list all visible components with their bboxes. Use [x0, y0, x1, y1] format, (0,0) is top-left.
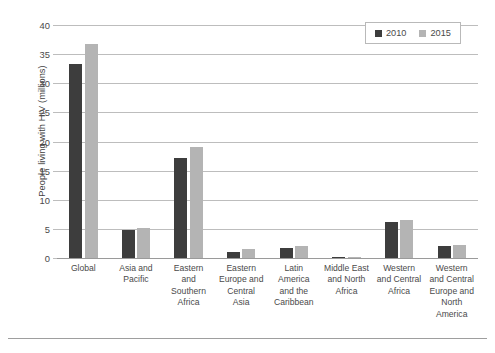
bar-group: [373, 25, 426, 258]
bar-2010[interactable]: [332, 257, 345, 258]
bar-group: [268, 25, 321, 258]
x-axis-label: Westernand CentralAfrica: [373, 263, 426, 320]
y-tick-label-40: 40: [40, 20, 50, 31]
bar-group: [215, 25, 268, 258]
legend-swatch-2015-icon: [419, 30, 426, 37]
legend-entry-2010: 2010: [375, 28, 406, 38]
bar-2010[interactable]: [438, 246, 451, 258]
bar-2010[interactable]: [174, 158, 187, 258]
bar-group: [162, 25, 215, 258]
y-tick-label-10: 10: [40, 194, 50, 205]
bar-2015[interactable]: [348, 257, 361, 258]
bar-2010[interactable]: [122, 230, 135, 258]
bar-2010[interactable]: [385, 222, 398, 258]
gridline-0: 0: [57, 258, 478, 259]
legend-entry-2015: 2015: [419, 28, 450, 38]
bar-2015[interactable]: [85, 44, 98, 258]
y-axis-title: People living with HIV (millions): [37, 11, 47, 251]
bar-2015[interactable]: [453, 245, 466, 258]
y-tick-label-5: 5: [45, 223, 50, 234]
legend-label-2010: 2010: [386, 28, 406, 38]
bar-2015[interactable]: [190, 147, 203, 258]
bar-2015[interactable]: [400, 220, 413, 258]
plot-area: 0510152025303540: [57, 25, 478, 258]
x-axis-label: EasternandSouthernAfrica: [162, 263, 215, 320]
y-tick-label-20: 20: [40, 136, 50, 147]
x-axis-label: Global: [57, 263, 110, 320]
y-tick-label-0: 0: [45, 253, 50, 264]
legend-label-2015: 2015: [430, 28, 450, 38]
bar-2015[interactable]: [295, 246, 308, 258]
bar-group: [320, 25, 373, 258]
bar-groups: [57, 25, 478, 258]
x-axis-label: EasternEurope andCentralAsia: [215, 263, 268, 320]
y-tick-label-35: 35: [40, 49, 50, 60]
bottom-divider: [8, 338, 487, 339]
bar-2010[interactable]: [280, 248, 293, 258]
bar-group: [425, 25, 478, 258]
y-tick-label-15: 15: [40, 165, 50, 176]
x-axis-label: LatinAmericaand theCaribbean: [268, 263, 321, 320]
bar-2010[interactable]: [227, 252, 240, 258]
bar-group: [110, 25, 163, 258]
x-axis-labels: GlobalAsia andPacificEasternandSouthernA…: [57, 263, 478, 320]
y-tick-mark-0: [53, 258, 57, 259]
bar-2015[interactable]: [242, 249, 255, 258]
bar-group: [57, 25, 110, 258]
bar-2010[interactable]: [69, 64, 82, 258]
x-axis-label: Middle Eastand NorthAfrica: [320, 263, 373, 320]
x-axis-label: Westernand CentralEurope andNorthAmerica: [425, 263, 478, 320]
bar-2015[interactable]: [137, 228, 150, 258]
x-axis-label: Asia andPacific: [110, 263, 163, 320]
y-tick-label-30: 30: [40, 78, 50, 89]
legend-swatch-2010-icon: [375, 30, 382, 37]
y-tick-label-25: 25: [40, 107, 50, 118]
chart-legend: 2010 2015: [365, 22, 461, 44]
bar-chart-figure: People living with HIV (millions) 051015…: [0, 0, 495, 353]
